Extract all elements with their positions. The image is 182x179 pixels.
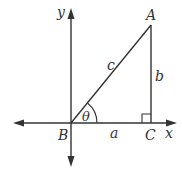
side-c-label: c: [107, 57, 115, 73]
vertex-a-label: A: [144, 7, 156, 23]
vertex-c-label: C: [145, 127, 156, 143]
y-axis-label: y: [56, 4, 66, 20]
side-a-label: a: [110, 125, 118, 141]
x-axis-label: x: [165, 125, 173, 141]
vertex-b-label: B: [57, 127, 68, 143]
triangle-diagram: y x A B C c b a θ: [0, 0, 182, 179]
side-b-label: b: [155, 68, 164, 84]
angle-theta-label: θ: [82, 109, 90, 124]
arrow-left-icon: [13, 120, 24, 127]
right-angle-marker: [142, 114, 151, 123]
arrow-down-icon: [68, 156, 75, 167]
arrow-up-icon: [68, 8, 75, 19]
